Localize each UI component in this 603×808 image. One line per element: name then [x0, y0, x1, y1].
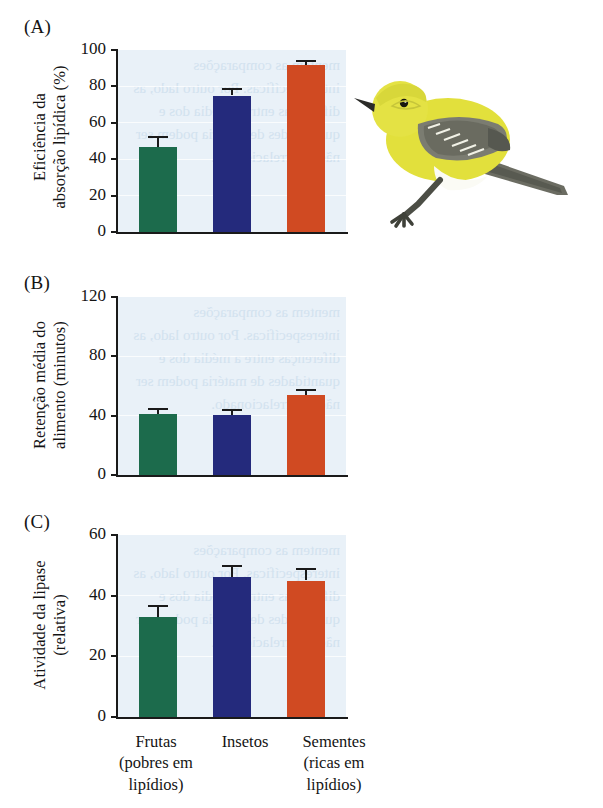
y-axis-tick-label: 40 [52, 148, 106, 168]
panel-c-plot-area: mentem as comparações interespecíficas. … [118, 535, 346, 717]
error-bar-cap [148, 605, 168, 607]
panel-b: (B) Retenção média do alimento (minutos)… [0, 255, 603, 495]
y-axis-tick-label: 40 [52, 405, 106, 425]
y-axis-tick-label: 0 [52, 221, 106, 241]
x-axis-line [116, 232, 348, 234]
panel-b-y-axis-label: Retenção média do alimento (minutos) [30, 287, 70, 483]
bird-beak [354, 98, 375, 112]
y-axis-tick-label: 20 [52, 185, 106, 205]
bar-frutas [139, 414, 177, 475]
error-bar-cap [296, 60, 316, 62]
bar-sementes [287, 395, 325, 475]
category-axis-labels: Frutas (pobres em lipídios) Insetos Seme… [0, 731, 603, 808]
error-bar-cap [148, 136, 168, 138]
y-axis-tick-label: 120 [52, 286, 106, 306]
error-bar-cap [222, 88, 242, 90]
error-bar-cap [222, 409, 242, 411]
y-axis-tick-label: 40 [52, 585, 106, 605]
error-bar-cap [296, 389, 316, 391]
panel-c: (C) Atividade da lipase (relativa) mente… [0, 495, 603, 730]
panel-a-plot-area: mentem as comparações interespecíficas. … [118, 50, 346, 232]
y-axis-line [116, 50, 118, 233]
error-bar-cap [222, 565, 242, 567]
bar-insetos [213, 577, 251, 717]
figure-bar-charts-lipid-digestion: (A) Eficiência da absorção lipídica (%) … [0, 0, 603, 808]
yellow-warbler-bird-illustration [352, 62, 584, 247]
category-label-insetos: Insetos [206, 731, 284, 752]
x-axis-line [116, 717, 348, 719]
y-axis-tick-label: 80 [52, 345, 106, 365]
bar-insetos [213, 96, 251, 233]
bird-leg [404, 180, 440, 216]
y-axis-line [116, 535, 118, 718]
bird-foot [392, 214, 412, 226]
error-bar-cap [148, 408, 168, 410]
bar-sementes [287, 581, 325, 718]
y-axis-tick-label: 100 [52, 39, 106, 59]
y-axis-tick-label: 80 [52, 75, 106, 95]
bar-frutas [139, 147, 177, 232]
bar-sementes [287, 65, 325, 232]
bar-frutas [139, 617, 177, 717]
bar-insetos [213, 415, 251, 475]
bird-eye [400, 99, 408, 107]
y-axis-tick-label: 20 [52, 645, 106, 665]
y-axis-line [116, 297, 118, 476]
category-label-frutas: Frutas (pobres em lipídios) [104, 731, 208, 795]
error-bar-cap [296, 568, 316, 570]
y-axis-tick-label: 60 [52, 112, 106, 132]
category-label-sementes: Sementes (ricas em lipídios) [282, 731, 386, 795]
panel-a-letter: (A) [24, 16, 51, 38]
panel-b-plot-area: mentem as comparações interespecíficas. … [118, 297, 346, 475]
y-axis-tick-label: 0 [52, 464, 106, 484]
x-axis-line [116, 475, 348, 477]
gridline [118, 356, 346, 357]
y-axis-tick-label: 0 [52, 706, 106, 726]
panel-c-y-axis-label: Atividade da lipase (relativa) [30, 527, 70, 723]
y-axis-tick-label: 60 [52, 524, 106, 544]
